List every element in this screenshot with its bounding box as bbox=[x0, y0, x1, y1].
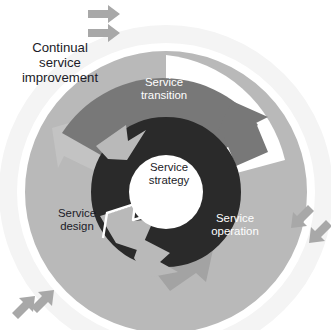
itil-lifecycle-diagram: Continual service improvement Service tr… bbox=[0, 0, 331, 330]
top-arrow-1-icon bbox=[88, 5, 120, 23]
top-arrows-group bbox=[88, 5, 120, 42]
center-disc bbox=[129, 155, 203, 229]
lifecycle-svg bbox=[0, 0, 331, 330]
